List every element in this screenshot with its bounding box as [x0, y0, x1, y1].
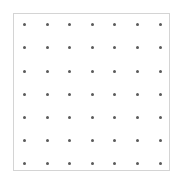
grid-dot — [159, 23, 162, 26]
grid-dot — [68, 46, 71, 49]
grid-dot — [159, 70, 162, 73]
grid-dot — [113, 139, 116, 142]
grid-dot — [113, 46, 116, 49]
grid-dot — [159, 46, 162, 49]
grid-dot — [113, 70, 116, 73]
grid-dot — [46, 162, 49, 165]
grid-dot — [46, 93, 49, 96]
grid-dot — [46, 139, 49, 142]
grid-dot — [113, 93, 116, 96]
grid-dot — [136, 162, 139, 165]
grid-dot — [136, 93, 139, 96]
grid-dot — [23, 23, 26, 26]
grid-dot — [68, 23, 71, 26]
grid-dot — [159, 139, 162, 142]
grid-dot — [113, 162, 116, 165]
grid-dot — [23, 70, 26, 73]
grid-dot — [91, 116, 94, 119]
grid-dot — [91, 139, 94, 142]
grid-dot — [46, 23, 49, 26]
grid-dot — [91, 70, 94, 73]
grid-dot — [159, 116, 162, 119]
grid-dot — [68, 93, 71, 96]
grid-dot — [113, 23, 116, 26]
grid-dot — [159, 162, 162, 165]
grid-dot — [136, 116, 139, 119]
grid-dot — [23, 162, 26, 165]
grid-dot — [68, 116, 71, 119]
grid-dot — [159, 93, 162, 96]
grid-dot — [91, 162, 94, 165]
grid-dot — [68, 162, 71, 165]
grid-dot — [91, 46, 94, 49]
grid-dot — [113, 116, 116, 119]
grid-dot — [23, 93, 26, 96]
grid-dot — [91, 23, 94, 26]
grid-dot — [46, 70, 49, 73]
grid-dot — [136, 70, 139, 73]
grid-dot — [23, 46, 26, 49]
grid-dot — [46, 116, 49, 119]
grid-dot — [136, 46, 139, 49]
grid-dot — [46, 46, 49, 49]
grid-dot — [91, 93, 94, 96]
grid-dot — [68, 70, 71, 73]
grid-dot — [136, 23, 139, 26]
grid-dot — [23, 139, 26, 142]
grid-dot — [23, 116, 26, 119]
grid-dot — [136, 139, 139, 142]
grid-dot — [68, 139, 71, 142]
